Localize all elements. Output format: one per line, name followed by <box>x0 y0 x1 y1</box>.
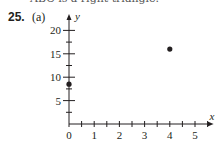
x-axis-arrow-icon <box>208 122 214 127</box>
data-point <box>66 82 71 87</box>
x-tick-label: 2 <box>117 129 123 141</box>
x-tick-label: 0 <box>66 129 72 141</box>
x-axis-label: x <box>209 110 215 122</box>
y-tick-label: 20 <box>50 24 62 36</box>
x-tick-label: 4 <box>167 129 173 141</box>
y-tick-label: 5 <box>56 95 62 107</box>
x-tick-label: 3 <box>142 129 148 141</box>
scatter-plot: 0123455101520xy <box>0 0 217 148</box>
data-point <box>167 47 172 52</box>
y-axis-arrow-icon <box>67 14 72 20</box>
y-axis-label: y <box>74 10 80 22</box>
x-tick-label: 5 <box>192 129 198 141</box>
x-tick-label: 1 <box>91 129 97 141</box>
y-tick-label: 15 <box>50 48 62 60</box>
y-tick-label: 10 <box>50 71 62 83</box>
